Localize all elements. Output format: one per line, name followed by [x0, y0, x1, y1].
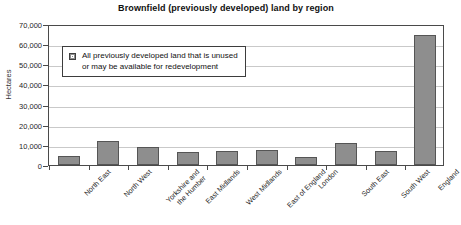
bar-slot: [247, 26, 287, 165]
x-axis-label: East Midlands: [205, 168, 243, 206]
x-axis-label: West Midlands: [245, 168, 284, 207]
legend-swatch-icon: [69, 53, 76, 60]
y-tick-label: 20,000: [0, 121, 42, 130]
bar[interactable]: [375, 151, 397, 165]
bar-slot: [287, 26, 327, 165]
legend-label: All previously developed land that is un…: [82, 51, 238, 72]
y-tick-mark: [43, 166, 48, 167]
bar[interactable]: [256, 150, 278, 165]
legend-label-line-2: or may be available for redevelopment: [82, 62, 238, 73]
bar[interactable]: [58, 156, 80, 165]
bar[interactable]: [216, 151, 238, 165]
y-axis-title: Hectares: [4, 55, 13, 115]
bar-slot: [405, 26, 445, 165]
x-axis-label-line-1: England: [437, 168, 461, 193]
bar[interactable]: [97, 141, 119, 165]
bar[interactable]: [177, 152, 199, 165]
legend-label-line-1: All previously developed land that is un…: [82, 51, 238, 62]
y-tick-label: 60,000: [0, 41, 42, 50]
y-tick-label: 70,000: [0, 21, 42, 30]
x-axis-label-line-1: South West: [400, 168, 432, 200]
bar[interactable]: [295, 157, 317, 165]
x-axis-label: England: [437, 168, 461, 193]
x-axis-label-line-1: North East: [82, 168, 112, 198]
y-tick-label: 10,000: [0, 141, 42, 150]
x-axis-label-line-1: North West: [123, 168, 154, 199]
bar-slot: [326, 26, 366, 165]
x-axis-labels: North EastNorth WestYorkshire andthe Hum…: [48, 168, 444, 225]
chart-title: Brownfield (previously developed) land b…: [0, 3, 452, 13]
x-axis-label: North East: [82, 168, 112, 198]
x-axis-label: Yorkshire andthe Humber: [165, 168, 208, 211]
bar-slot: [366, 26, 406, 165]
bar[interactable]: [335, 143, 357, 165]
x-axis-label: South East: [360, 168, 391, 199]
x-axis-label-line-1: East Midlands: [205, 168, 243, 206]
x-axis-label-line-1: South East: [360, 168, 391, 199]
chart-legend: All previously developed land that is un…: [62, 46, 246, 77]
x-axis-label: South West: [400, 168, 432, 200]
bar[interactable]: [137, 147, 159, 165]
bar[interactable]: [414, 35, 436, 165]
x-axis-label-line-1: West Midlands: [245, 168, 284, 207]
y-tick-label: 0: [0, 162, 42, 171]
x-axis-label: North West: [123, 168, 154, 199]
